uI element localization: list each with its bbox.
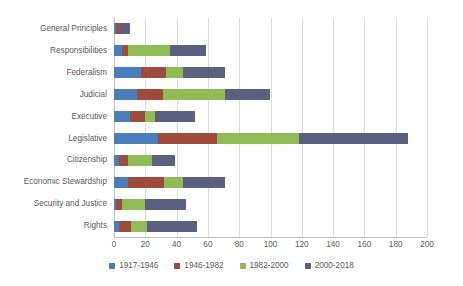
legend-swatch-icon [174,263,180,269]
category-label: Rights [84,215,107,237]
stacked-bar[interactable] [114,23,130,34]
bar-segment-2000-2018[interactable] [183,67,225,78]
bar-segment-2000-2018[interactable] [155,111,196,122]
legend-swatch-icon [305,263,311,269]
legend-swatch-icon [240,263,246,269]
bar-segment-1982-2000[interactable] [217,133,298,144]
bar-segment-1982-2000[interactable] [128,45,170,56]
category-label: Responsibilities [50,40,107,62]
bar-segment-1982-2000[interactable] [163,89,226,100]
category-label: General Principles [40,18,107,40]
legend-label: 1946-1982 [184,261,223,270]
stacked-bar[interactable] [114,67,225,78]
bar-segment-2000-2018[interactable] [152,155,175,166]
category-label: Judicial [80,84,107,106]
legend-item[interactable]: 1917-1946 [109,261,158,270]
legend-item[interactable]: 2000-2018 [305,261,354,270]
bar-segment-1982-2000[interactable] [128,155,151,166]
bar-segment-1917-1946[interactable] [114,89,137,100]
bar-segment-1946-1982[interactable] [128,177,164,188]
bar-segment-2000-2018[interactable] [147,221,197,232]
bar-chart: General PrinciplesResponsibilitiesFedera… [0,0,463,286]
chart-legend: 1917-19461946-19821982-20002000-2018 [0,261,463,270]
gridline-200 [427,18,428,237]
legend-item[interactable]: 1946-1982 [174,261,223,270]
stacked-bar[interactable] [114,199,186,210]
bar-segment-1917-1946[interactable] [114,133,158,144]
category-label: Executive [72,106,108,128]
chart-row: Legislative [114,128,427,150]
legend-label: 1982-2000 [250,261,289,270]
bar-segment-1982-2000[interactable] [131,221,147,232]
bar-segment-1982-2000[interactable] [122,199,145,210]
bar-segment-1917-1946[interactable] [114,177,128,188]
chart-row: Federalism [114,62,427,84]
stacked-bar[interactable] [114,155,175,166]
chart-row: Economic Stewardship [114,171,427,193]
stacked-bar[interactable] [114,133,408,144]
chart-row: General Principles [114,18,427,40]
legend-label: 2000-2018 [315,261,354,270]
stacked-bar[interactable] [114,89,270,100]
chart-row: Citizenship [114,149,427,171]
plot-area: General PrinciplesResponsibilitiesFedera… [114,18,427,237]
x-tick-label: 200 [407,240,447,249]
bar-segment-1946-1982[interactable] [158,133,217,144]
bar-segment-1917-1946[interactable] [114,67,141,78]
category-label: Economic Stewardship [24,171,107,193]
bar-segment-1982-2000[interactable] [145,111,154,122]
category-label: Citizenship [67,149,107,171]
chart-row: Executive [114,106,427,128]
legend-item[interactable]: 1982-2000 [240,261,289,270]
legend-swatch-icon [109,263,115,269]
bar-segment-2000-2018[interactable] [225,89,270,100]
bar-segment-1946-1982[interactable] [119,155,128,166]
bar-segment-1946-1982[interactable] [119,221,132,232]
chart-row: Responsibilities [114,40,427,62]
chart-row: Security and Justice [114,193,427,215]
bar-segment-2000-2018[interactable] [183,177,225,188]
bar-segment-1946-1982[interactable] [130,111,146,122]
stacked-bar[interactable] [114,111,195,122]
bar-segment-1982-2000[interactable] [166,67,183,78]
bar-segment-2000-2018[interactable] [145,199,186,210]
bar-segment-1946-1982[interactable] [141,67,166,78]
bar-segment-2000-2018[interactable] [170,45,206,56]
legend-label: 1917-1946 [119,261,158,270]
stacked-bar[interactable] [114,221,197,232]
bar-segment-2000-2018[interactable] [299,133,409,144]
category-label: Legislative [68,128,107,150]
bar-segment-2000-2018[interactable] [120,23,129,34]
bar-segment-1946-1982[interactable] [137,89,162,100]
stacked-bar[interactable] [114,45,206,56]
category-label: Security and Justice [34,193,107,215]
bar-segment-1917-1946[interactable] [114,111,130,122]
stacked-bar[interactable] [114,177,225,188]
chart-row: Rights [114,215,427,237]
x-axis-line [114,237,427,238]
category-label: Federalism [67,62,108,84]
bar-segment-1917-1946[interactable] [114,45,122,56]
bar-segment-1982-2000[interactable] [164,177,183,188]
chart-row: Judicial [114,84,427,106]
